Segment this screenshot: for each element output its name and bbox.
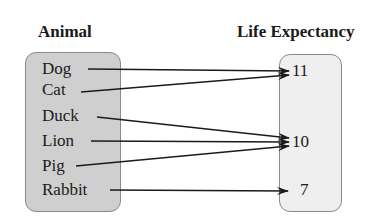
arrow-rabbit-7 [110,190,288,191]
mapping-arrows [0,0,387,220]
arrow-lion-10 [91,141,289,142]
arrow-pig-10 [76,146,289,166]
arrow-dog-11 [88,69,289,71]
arrow-cat-11 [81,75,289,92]
arrow-duck-10 [97,117,289,138]
